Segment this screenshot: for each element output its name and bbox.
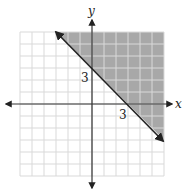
- x-tick-label-3: 3: [119, 108, 127, 122]
- y-axis-label: y: [87, 4, 95, 18]
- x-axis-label: x: [175, 97, 182, 111]
- y-tick-label-3: 3: [81, 71, 89, 85]
- inequality-graph: y x 3 3: [0, 0, 189, 191]
